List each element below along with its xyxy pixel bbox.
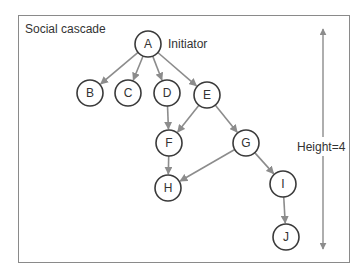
node-label: A: [144, 37, 152, 51]
node-label: H: [164, 181, 173, 195]
node-g: G: [233, 130, 259, 156]
node-label: F: [165, 136, 172, 150]
node-label: J: [283, 230, 289, 244]
node-d: D: [154, 80, 180, 106]
node-label: G: [241, 136, 250, 150]
node-label: D: [163, 86, 172, 100]
node-label: I: [281, 177, 284, 191]
node-j: J: [273, 224, 299, 250]
height-label: Height=4: [297, 140, 346, 154]
node-label: C: [124, 86, 133, 100]
initiator-label: Initiator: [168, 37, 207, 51]
node-label: B: [86, 86, 94, 100]
social-cascade-diagram: Social cascade Initiator ABCDEFGHIJ Heig…: [0, 0, 364, 276]
node-a: A: [135, 31, 161, 57]
diagram-frame: [19, 16, 350, 263]
edge-d-f: [168, 106, 169, 129]
node-b: B: [77, 80, 103, 106]
diagram-title: Social cascade: [25, 22, 106, 36]
node-f: F: [156, 130, 182, 156]
node-i: I: [270, 171, 296, 197]
node-h: H: [155, 175, 181, 201]
node-label: E: [203, 88, 211, 102]
node-c: C: [115, 80, 141, 106]
node-e: E: [194, 82, 220, 108]
